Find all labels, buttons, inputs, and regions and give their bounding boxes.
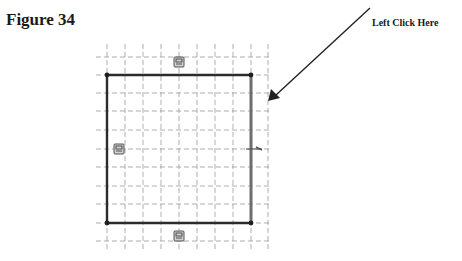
corner-point[interactable] — [249, 73, 254, 78]
cursor-marker-icon — [246, 147, 262, 150]
left-edge-relation-icon[interactable] — [114, 144, 124, 154]
sketch-canvas[interactable] — [0, 0, 462, 261]
top-edge-relation-icon[interactable] — [174, 57, 184, 67]
bottom-edge-relation-icon[interactable] — [174, 231, 184, 241]
corner-point[interactable] — [249, 221, 254, 226]
corner-point[interactable] — [105, 73, 110, 78]
callout-arrow-icon — [268, 8, 370, 101]
corner-point[interactable] — [105, 221, 110, 226]
